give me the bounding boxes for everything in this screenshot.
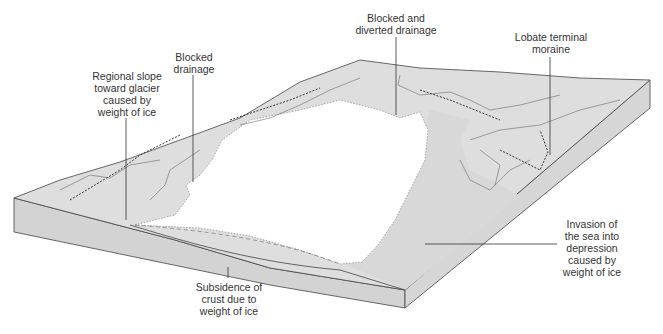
label-lobate-terminal-moraine: Lobate terminal moraine <box>508 31 594 55</box>
label-blocked-drainage: Blocked drainage <box>168 51 220 75</box>
label-subsidence-of-crust: Subsidence of crust due to weight of ice <box>192 281 266 317</box>
label-regional-slope: Regional slope toward glacier caused by … <box>84 70 170 118</box>
label-blocked-diverted-drainage: Blocked and diverted drainage <box>350 12 442 36</box>
label-invasion-of-sea: Invasion of the sea into depression caus… <box>555 218 629 278</box>
